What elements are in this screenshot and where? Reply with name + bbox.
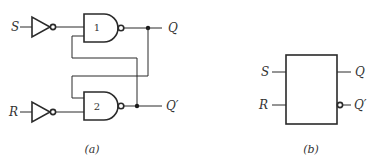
sr-latch-diagram: S 1 Q 2 Q′ R <box>0 0 377 159</box>
block-inversion-bubble-icon <box>337 102 342 107</box>
block-output-q-label: Q <box>355 65 365 79</box>
input-s-label: S <box>11 20 19 34</box>
figure-b: S R Q Q′ (b) <box>258 55 367 156</box>
caption-b: (b) <box>303 143 319 156</box>
nand-gate-2-icon <box>84 92 124 120</box>
s-inverter-icon <box>32 17 56 37</box>
output-q-not-label: Q′ <box>166 99 179 113</box>
caption-a: (a) <box>84 143 99 156</box>
output-q-label: Q <box>168 21 178 35</box>
sr-latch-block <box>286 55 337 124</box>
gate-1-label: 1 <box>94 22 100 33</box>
block-input-s-label: S <box>261 65 269 79</box>
q-not-junction-dot <box>135 104 139 108</box>
input-r-label: R <box>8 105 18 119</box>
figure-a: S 1 Q 2 Q′ R <box>8 14 179 156</box>
nand-gate-1-icon <box>84 14 124 42</box>
block-output-q-not-label: Q′ <box>354 98 367 112</box>
gate-2-label: 2 <box>94 101 100 112</box>
r-inverter-icon <box>32 102 56 122</box>
block-input-r-label: R <box>258 98 268 112</box>
